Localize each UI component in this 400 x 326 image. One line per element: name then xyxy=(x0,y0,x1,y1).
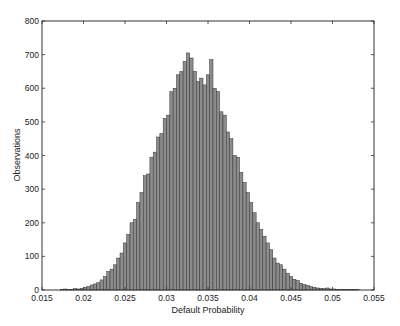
histogram-bar xyxy=(309,287,312,290)
histogram-bar xyxy=(253,213,256,290)
histogram-bar xyxy=(243,182,246,290)
x-tick-label: 0.04 xyxy=(241,293,258,303)
histogram-bar xyxy=(110,269,113,290)
histogram-bar xyxy=(113,265,116,290)
histogram-bar xyxy=(130,223,133,290)
y-tick-label: 600 xyxy=(25,83,39,93)
histogram-bar xyxy=(216,92,219,290)
x-tick-label: 0.045 xyxy=(280,293,302,303)
histogram-bar xyxy=(137,203,140,290)
histogram-bar xyxy=(100,280,103,290)
histogram-bar xyxy=(117,258,120,290)
y-tick-label: 400 xyxy=(25,151,39,161)
x-tick-label: 0.055 xyxy=(363,293,385,303)
histogram-bar xyxy=(150,157,153,290)
y-tick-label: 200 xyxy=(25,218,39,228)
histogram-bar xyxy=(170,92,173,290)
histogram-bar xyxy=(87,287,90,290)
histogram-bar xyxy=(120,253,123,290)
histogram-bar xyxy=(273,258,276,290)
histogram-bar xyxy=(210,60,213,290)
histogram-bar xyxy=(186,53,189,290)
x-tick-label: 0.025 xyxy=(114,293,136,303)
y-tick-label: 800 xyxy=(25,16,39,26)
histogram-bar xyxy=(203,85,206,290)
histogram-bar xyxy=(107,272,110,290)
histogram-bar xyxy=(230,139,233,290)
histogram-bar xyxy=(193,71,196,290)
histogram-bar xyxy=(167,115,170,290)
histogram-bar xyxy=(263,236,266,290)
histogram-bar xyxy=(303,285,306,290)
histogram-bar xyxy=(183,61,186,290)
histogram-bar xyxy=(213,88,216,290)
histogram-bar xyxy=(286,273,289,290)
histogram-bar xyxy=(306,285,309,290)
histogram-bar xyxy=(140,192,143,290)
histogram-bars xyxy=(60,53,359,290)
histogram-bar xyxy=(93,284,96,290)
histogram-bar xyxy=(190,58,193,290)
histogram-bar xyxy=(160,134,163,290)
histogram-bar xyxy=(233,156,236,291)
histogram-bar xyxy=(153,152,156,290)
histogram-bar xyxy=(236,157,239,290)
histogram-bar xyxy=(173,88,176,290)
histogram-bar xyxy=(147,174,150,290)
histogram-bar xyxy=(127,235,130,290)
histogram-bar xyxy=(97,283,100,290)
histogram-bar xyxy=(90,285,93,290)
histogram-bar xyxy=(259,229,262,290)
histogram-bar xyxy=(220,112,223,290)
y-tick-label: 0 xyxy=(34,285,39,295)
histogram-bar xyxy=(180,71,183,290)
histogram-bar xyxy=(256,223,259,290)
histogram-bar xyxy=(163,119,166,290)
histogram-bar xyxy=(299,283,302,290)
x-tick-label: 0.035 xyxy=(197,293,219,303)
x-axis-label: Default Probability xyxy=(171,305,245,315)
histogram-bar xyxy=(276,263,279,290)
histogram-bar xyxy=(123,243,126,290)
histogram-bar xyxy=(269,250,272,290)
histogram-bar xyxy=(196,82,199,290)
histogram-bar xyxy=(143,176,146,290)
histogram-bar xyxy=(157,137,160,290)
y-tick-label: 100 xyxy=(25,251,39,261)
x-tick-label: 0.02 xyxy=(75,293,92,303)
histogram-bar xyxy=(206,75,209,290)
histogram-bar xyxy=(176,75,179,290)
histogram-bar xyxy=(103,277,106,290)
histogram-bar xyxy=(293,279,296,290)
x-tick-label: 0.05 xyxy=(324,293,341,303)
histogram-chart: 0.0150.020.0250.030.0350.040.0450.050.05… xyxy=(0,0,400,326)
x-tick-label: 0.03 xyxy=(158,293,175,303)
histogram-bar xyxy=(226,132,229,290)
y-tick-label: 500 xyxy=(25,117,39,127)
histogram-bar xyxy=(283,269,286,290)
histogram-bar xyxy=(250,203,253,290)
histogram-bar xyxy=(200,78,203,290)
histogram-bar xyxy=(240,172,243,290)
histogram-bar xyxy=(266,243,269,290)
histogram-bar xyxy=(133,219,136,290)
y-tick-label: 700 xyxy=(25,50,39,60)
histogram-bar xyxy=(223,115,226,290)
histogram-bar xyxy=(246,192,249,290)
histogram-bar xyxy=(296,281,299,290)
y-tick-label: 300 xyxy=(25,184,39,194)
histogram-bar xyxy=(279,265,282,290)
y-axis-label: Observations xyxy=(12,128,22,182)
